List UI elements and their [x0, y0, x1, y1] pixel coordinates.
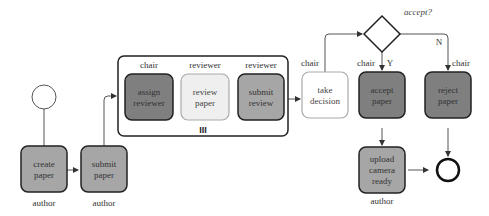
- role-label: chair: [140, 60, 158, 70]
- svg-text:review: review: [193, 87, 218, 97]
- svg-text:camera: camera: [369, 165, 395, 175]
- role-label: chair: [301, 58, 319, 68]
- yes-label: Y: [387, 58, 394, 68]
- role-label: author: [33, 198, 56, 208]
- role-label: author: [371, 196, 394, 206]
- role-label: chair: [357, 58, 375, 68]
- svg-text:upload: upload: [370, 154, 395, 164]
- no-label: N: [436, 37, 443, 47]
- task-create-paper: create paper author: [21, 146, 67, 208]
- svg-text:reviewer: reviewer: [133, 98, 164, 108]
- svg-text:paper: paper: [34, 170, 54, 180]
- role-label: chair: [452, 58, 470, 68]
- svg-text:accept: accept: [371, 85, 394, 95]
- task-upload-camera-ready: upload camera ready author: [359, 147, 405, 206]
- svg-text:accept?: accept?: [404, 7, 432, 17]
- svg-text:take: take: [318, 85, 333, 95]
- svg-text:paper: paper: [438, 96, 458, 106]
- svg-text:decision: decision: [310, 96, 340, 106]
- task-accept-paper: accept paper chair: [357, 58, 405, 118]
- svg-text:ready: ready: [372, 176, 392, 186]
- svg-text:paper: paper: [94, 170, 114, 180]
- gateway-accept: accept? Y N: [364, 7, 443, 68]
- task-submit-paper: submit paper author: [81, 146, 127, 208]
- role-label: reviewer: [189, 60, 220, 70]
- multi-instance-marker: III: [199, 125, 207, 135]
- svg-text:submit: submit: [92, 159, 117, 169]
- svg-text:paper: paper: [195, 98, 215, 108]
- role-label: reviewer: [245, 60, 276, 70]
- svg-text:submit: submit: [249, 87, 274, 97]
- svg-text:paper: paper: [372, 96, 392, 106]
- svg-text:reject: reject: [438, 85, 458, 95]
- start-event: [32, 85, 56, 109]
- end-event: [437, 159, 459, 181]
- role-label: author: [93, 198, 116, 208]
- svg-text:assign: assign: [138, 87, 161, 97]
- svg-text:review: review: [249, 98, 274, 108]
- svg-text:create: create: [33, 159, 54, 169]
